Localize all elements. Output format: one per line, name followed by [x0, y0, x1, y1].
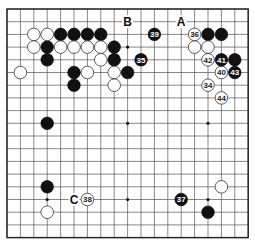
- move-number: 44: [217, 94, 226, 103]
- black-stone: [68, 28, 81, 41]
- move-number: 37: [177, 195, 186, 204]
- white-stone: [108, 79, 121, 92]
- white-stone: [95, 41, 108, 54]
- label-text: C: [70, 193, 79, 207]
- label-text: B: [123, 15, 132, 29]
- black-stone: [202, 28, 215, 41]
- move-39-black-stone: 39: [148, 28, 161, 41]
- move-number: 39: [150, 30, 159, 39]
- black-stone: [108, 41, 121, 54]
- black-stone: [229, 54, 242, 67]
- move-number: 34: [204, 81, 213, 90]
- black-stone: [68, 79, 81, 92]
- move-44-white-stone: 44: [215, 92, 228, 105]
- move-34-white-stone: 34: [202, 79, 215, 92]
- star-point: [126, 198, 129, 201]
- move-43-black-stone: 43: [229, 66, 242, 79]
- black-stone: [108, 54, 121, 67]
- white-stone: [95, 54, 108, 67]
- move-number: 38: [83, 195, 92, 204]
- label-c: C: [69, 193, 80, 207]
- move-36-white-stone: 36: [188, 28, 201, 41]
- go-board: 3435363738394041424344 ABC: [0, 0, 255, 247]
- black-stone: [81, 28, 94, 41]
- white-stone: [81, 41, 94, 54]
- black-stone: [41, 41, 54, 54]
- black-stone: [121, 66, 134, 79]
- white-stone: [28, 41, 41, 54]
- move-number: 42: [204, 56, 213, 65]
- black-stone: [215, 28, 228, 41]
- black-stone: [54, 28, 67, 41]
- star-point: [126, 46, 129, 49]
- move-38-white-stone: 38: [81, 193, 94, 206]
- label-text: A: [177, 15, 186, 29]
- black-stone: [41, 117, 54, 130]
- white-stone: [108, 66, 121, 79]
- star-point: [126, 122, 129, 125]
- star-point: [46, 198, 49, 201]
- black-stone: [68, 66, 81, 79]
- black-stone: [41, 54, 54, 67]
- move-number: 35: [137, 56, 146, 65]
- white-stone: [81, 66, 94, 79]
- move-41-black-stone: 41: [215, 54, 228, 67]
- move-42-white-stone: 42: [202, 54, 215, 67]
- move-35-black-stone: 35: [135, 54, 148, 67]
- white-stone: [54, 41, 67, 54]
- white-stone: [215, 181, 228, 194]
- white-stone: [28, 28, 41, 41]
- white-stone: [41, 206, 54, 219]
- black-stone: [95, 28, 108, 41]
- label-b: B: [122, 15, 133, 29]
- white-stone: [41, 28, 54, 41]
- white-stone: [188, 41, 201, 54]
- move-40-white-stone: 40: [215, 66, 228, 79]
- move-37-black-stone: 37: [175, 193, 188, 206]
- label-a: A: [176, 15, 187, 29]
- move-number: 43: [230, 68, 239, 77]
- star-point: [206, 198, 209, 201]
- move-number: 36: [190, 30, 199, 39]
- white-stone: [14, 66, 27, 79]
- black-stone: [202, 206, 215, 219]
- black-stone: [41, 181, 54, 194]
- star-point: [206, 122, 209, 125]
- white-stone: [202, 41, 215, 54]
- white-stone: [68, 41, 81, 54]
- move-number: 40: [217, 68, 226, 77]
- move-number: 41: [217, 56, 226, 65]
